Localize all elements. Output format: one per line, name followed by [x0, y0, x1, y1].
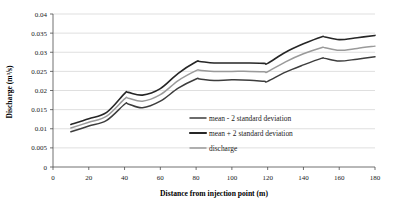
y-tick-label: 0.025 [31, 68, 47, 76]
y-tick-label: 0.015 [31, 106, 47, 114]
x-tick-label: 20 [85, 174, 93, 182]
y-tick-label: 0.02 [35, 87, 48, 95]
y-axis-title: Discharge (m³/s) [5, 65, 14, 119]
y-axis-ticks: 00.0050.010.0150.020.0250.030.0350.04 [31, 11, 53, 172]
chart-canvas: 00.0050.010.0150.020.0250.030.0350.04 02… [0, 0, 395, 206]
y-tick-label: 0.035 [31, 30, 47, 38]
y-tick-label: 0.01 [35, 125, 48, 133]
x-tick-label: 0 [51, 174, 55, 182]
legend-label: mean + 2 standard deviation [209, 129, 293, 138]
x-tick-label: 160 [334, 174, 345, 182]
x-tick-label: 60 [157, 174, 165, 182]
y-tick-label: 0.005 [31, 144, 47, 152]
x-tick-label: 80 [193, 174, 201, 182]
x-tick-label: 140 [298, 174, 309, 182]
discharge-line-chart: 00.0050.010.0150.020.0250.030.0350.04 02… [0, 0, 395, 206]
x-axis-ticks: 020406080100120140160180 [51, 167, 381, 182]
x-tick-label: 100 [227, 174, 238, 182]
x-tick-label: 180 [370, 174, 381, 182]
legend-label: mean - 2 standard deviation [209, 114, 291, 123]
chart-legend: mean - 2 standard deviationmean + 2 stan… [190, 114, 293, 153]
legend-label: discharge [209, 144, 238, 153]
y-tick-label: 0 [44, 164, 48, 172]
x-tick-label: 120 [262, 174, 273, 182]
y-tick-label: 0.04 [35, 11, 48, 19]
x-tick-label: 40 [121, 174, 129, 182]
y-tick-label: 0.03 [35, 49, 48, 57]
x-axis-title: Distance from injection point (m) [160, 189, 268, 198]
